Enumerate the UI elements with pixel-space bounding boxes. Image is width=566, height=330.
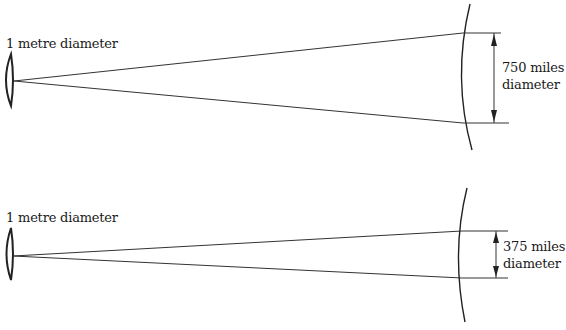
bottom-diagram [7,188,509,322]
arrowhead-down-top [491,110,497,122]
beam-lower-bottom [13,256,462,278]
arrowhead-down-bottom [493,266,499,277]
spot-size-label-bottom-line2: diameter [503,256,561,272]
mirror-top [6,54,13,106]
spot-size-label-top-line2: diameter [502,77,560,93]
beam-upper-bottom [13,231,462,256]
mirror-bottom [7,228,14,280]
beam-divergence-figure: 1 metre diameter 750 miles diameter 1 me… [0,0,566,330]
spot-size-label-top-line1: 750 miles [502,60,564,76]
spot-size-label-bottom-line1: 375 miles [503,239,565,255]
top-diagram [6,4,509,150]
mirror-diameter-label-top: 1 metre diameter [6,36,118,52]
arrowhead-up-top [491,34,497,46]
earth-surface-arc-top [461,4,472,150]
arrowhead-up-bottom [493,232,499,243]
earth-surface-arc-bottom [458,188,467,322]
beam-lower-top [14,81,463,123]
mirror-diameter-label-bottom: 1 metre diameter [6,210,118,226]
